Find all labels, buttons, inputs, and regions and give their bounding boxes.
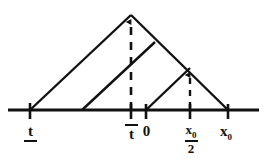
large-triangle-right-slope bbox=[131, 15, 228, 110]
axis-label-x0-base: x bbox=[220, 123, 228, 139]
figure-root: t t 0 x0 2 x0 bbox=[0, 0, 267, 162]
fraction-numerator-subscript: 0 bbox=[192, 130, 197, 140]
fraction-x0-over-2: x0 2 bbox=[185, 123, 198, 156]
large-triangle-left-slope bbox=[30, 15, 131, 110]
axis-label-zero: 0 bbox=[140, 124, 153, 139]
axis-label-t-upper: t bbox=[125, 124, 138, 142]
axis-label-x0-half: x0 2 bbox=[180, 123, 202, 156]
axis-label-x0-subscript: 0 bbox=[228, 132, 233, 142]
fraction-denominator: 2 bbox=[185, 142, 198, 156]
small-triangle-slope bbox=[146, 68, 190, 110]
fraction-numerator: x0 bbox=[185, 123, 198, 142]
axis-label-x0: x0 bbox=[220, 124, 240, 142]
axis-label-t-lower: t bbox=[24, 124, 37, 142]
